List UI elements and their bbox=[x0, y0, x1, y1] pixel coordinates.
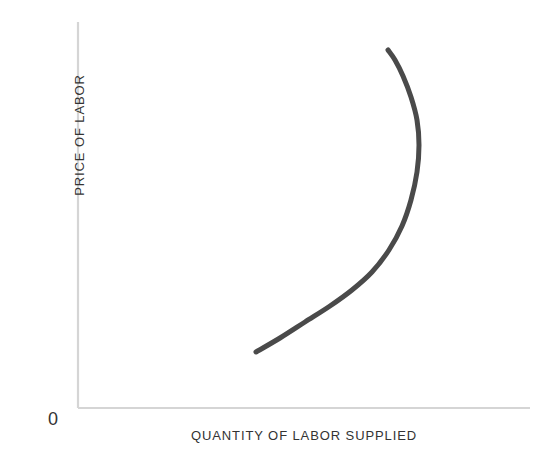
y-axis-label: PRICE OF LABOR bbox=[71, 55, 89, 215]
origin-label: 0 bbox=[48, 408, 58, 430]
x-axis-label: QUANTITY OF LABOR SUPPLIED bbox=[78, 428, 530, 443]
chart-figure: PRICE OF LABOR QUANTITY OF LABOR SUPPLIE… bbox=[0, 0, 556, 473]
labor-supply-curve bbox=[256, 50, 419, 352]
